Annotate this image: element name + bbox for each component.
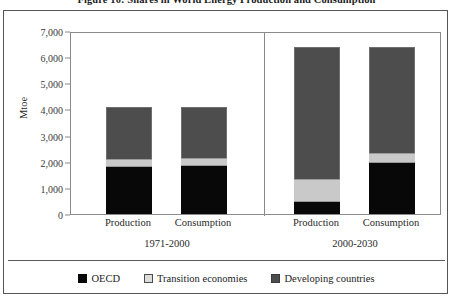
y-axis-tick-label: 6,000 (41, 53, 64, 64)
bar-segment-oecd[interactable] (369, 163, 415, 214)
y-axis-tick-label: 3,000 (41, 131, 64, 142)
figure-caption: Figure 10: Shares in World Energy Produc… (0, 0, 453, 5)
figure-frame: Mtoe 01,0002,0003,0004,0005,0006,0007,00… (3, 10, 448, 294)
bar-segment-oecd[interactable] (294, 202, 340, 214)
legend-item-transition[interactable]: Transition economies (144, 273, 247, 284)
y-axis-tick-label: 0 (58, 210, 63, 221)
y-axis-tick-label: 2,000 (41, 157, 64, 168)
legend-item-oecd[interactable]: OECD (78, 273, 120, 284)
x-axis-group-label: 2000-2030 (310, 238, 400, 249)
bar-segment-developing-countries[interactable] (106, 107, 152, 159)
developing-swatch (271, 274, 280, 283)
bar-segment-developing-countries[interactable] (181, 107, 227, 158)
oecd-swatch (78, 274, 87, 283)
y-axis-tick-label: 1,000 (41, 183, 64, 194)
bar-2[interactable] (294, 47, 340, 214)
plot-area (70, 32, 441, 215)
transition-swatch (144, 274, 153, 283)
y-axis-tick-label: 4,000 (41, 105, 64, 116)
bar-segment-transition-economies[interactable] (369, 153, 415, 163)
x-axis-group-labels: 1971-20002000-2030 (70, 238, 441, 254)
y-axis-tick-label: 7,000 (41, 27, 64, 38)
y-axis-ticks: 01,0002,0003,0004,0005,0006,0007,000 (4, 32, 70, 215)
x-axis-category-labels: ProductionConsumptionProductionConsumpti… (70, 217, 441, 233)
bar-segment-developing-countries[interactable] (369, 47, 415, 153)
y-axis-tick-label: 5,000 (41, 79, 64, 90)
bar-segment-oecd[interactable] (181, 166, 227, 214)
chart-legend: OECDTransition economiesDeveloping count… (4, 273, 449, 284)
bar-0[interactable] (106, 107, 152, 214)
legend-item-label: OECD (91, 273, 120, 284)
bar-segment-oecd[interactable] (106, 167, 152, 214)
bar-segment-transition-economies[interactable] (294, 179, 340, 203)
legend-item-label: Transition economies (157, 273, 247, 284)
group-divider (264, 33, 265, 216)
x-axis-category-label: Consumption (158, 217, 248, 228)
bar-segment-developing-countries[interactable] (294, 47, 340, 179)
legend-item-label: Developing countries (284, 273, 374, 284)
legend-item-developing[interactable]: Developing countries (271, 273, 374, 284)
group-separator-line (8, 260, 445, 261)
bar-1[interactable] (181, 107, 227, 214)
x-axis-group-label: 1971-2000 (122, 238, 212, 249)
bar-segment-transition-economies[interactable] (181, 158, 227, 166)
x-axis-category-label: Consumption (346, 217, 436, 228)
bar-3[interactable] (369, 47, 415, 214)
bar-segment-transition-economies[interactable] (106, 159, 152, 167)
